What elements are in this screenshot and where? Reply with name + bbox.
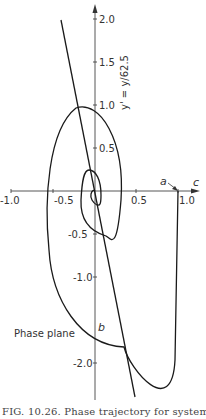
panel-label: Phase plane <box>14 328 75 339</box>
y-tick-0.5: 0.5 <box>99 143 115 154</box>
y-tick-neg-1.0: -1.0 <box>73 272 93 283</box>
y-tick-1.5: 1.5 <box>99 57 115 68</box>
y-tick-neg-2.0: -2.0 <box>73 358 93 369</box>
x-tick-1.0: 1.0 <box>179 195 195 206</box>
point-b-label: b <box>98 321 105 334</box>
figure-caption: FIG. 10.26. Phase trajectory for system <box>2 406 206 417</box>
y-tick-2.0: 2.0 <box>99 14 115 25</box>
y-tick-1.0: 1.0 <box>99 100 115 111</box>
x-axis-label: c <box>193 176 199 189</box>
point-a-marker: a <box>160 175 178 191</box>
y-tick-neg-0.5: -0.5 <box>68 229 88 240</box>
point-a-label: a <box>160 175 167 188</box>
x-axis: -1.0 -0.5 0.5 1.0 c <box>0 176 200 206</box>
x-tick-neg-0.5: -0.5 <box>54 195 74 206</box>
x-tick-neg-1.0: -1.0 <box>0 195 20 206</box>
x-axis-arrow-icon <box>191 189 200 194</box>
y-axis-arrow-icon <box>93 4 98 13</box>
x-tick-0.5: 0.5 <box>131 195 147 206</box>
phase-plane-diagram: 2.0 1.5 1.0 0.5 -0.5 -1.0 -2.0 y' = y/62… <box>0 0 206 419</box>
y-axis-label: y' = y/62.5 <box>119 55 130 110</box>
